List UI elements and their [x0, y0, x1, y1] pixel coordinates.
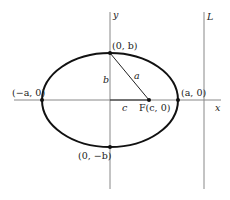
a-label: a: [134, 70, 140, 81]
point-top-vertex: [108, 51, 112, 55]
right-vertex-label: (a, 0): [181, 87, 206, 98]
c-label: c: [122, 102, 128, 113]
focus-label: F(c, 0): [139, 102, 170, 113]
ellipse-diagram: y x L (0, b) (0, −b) (−a, 0) (a, 0) F(c,…: [0, 0, 230, 200]
bottom-vertex-label: (0, −b): [78, 150, 112, 161]
segment-a: [110, 53, 149, 100]
x-axis-label: x: [215, 102, 221, 113]
top-vertex-label: (0, b): [112, 40, 138, 51]
point-left-vertex: [40, 98, 44, 102]
point-bottom-vertex: [108, 145, 112, 149]
point-right-vertex: [176, 98, 180, 102]
directrix-label: L: [206, 11, 213, 22]
b-label: b: [103, 74, 109, 85]
left-vertex-label: (−a, 0): [12, 87, 45, 98]
y-axis-label: y: [112, 9, 119, 20]
